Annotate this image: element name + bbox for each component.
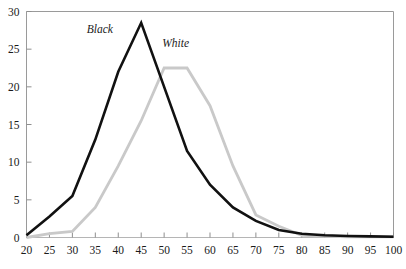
x-tick-label: 70 xyxy=(250,244,262,256)
series-line-white xyxy=(27,68,394,238)
x-tick-label: 50 xyxy=(158,244,170,256)
x-tick-label: 45 xyxy=(135,244,147,256)
chart-container: 051015202530 202530354045505560657075808… xyxy=(0,0,406,269)
x-axis-tick-labels: 20253035404550556065707580859095100 xyxy=(21,244,403,256)
x-tick-label: 55 xyxy=(181,244,193,256)
y-tick-label: 10 xyxy=(8,156,20,168)
y-axis-ticks xyxy=(27,12,32,238)
x-tick-label: 25 xyxy=(44,244,56,256)
y-tick-label: 5 xyxy=(14,194,20,206)
x-tick-label: 60 xyxy=(204,244,216,256)
x-tick-label: 80 xyxy=(296,244,308,256)
x-tick-label: 40 xyxy=(113,244,125,256)
x-tick-label: 85 xyxy=(319,244,331,256)
y-tick-label: 0 xyxy=(14,232,20,244)
distribution-line-chart: 051015202530 202530354045505560657075808… xyxy=(0,0,406,269)
x-tick-label: 20 xyxy=(21,244,33,256)
x-tick-label: 90 xyxy=(342,244,354,256)
x-tick-label: 75 xyxy=(273,244,285,256)
x-tick-label: 35 xyxy=(90,244,102,256)
series-label-white: White xyxy=(162,37,189,49)
plot-frame xyxy=(27,12,394,238)
plot-border xyxy=(27,12,394,238)
series-line-black xyxy=(27,23,394,237)
x-tick-label: 100 xyxy=(385,244,403,256)
x-tick-label: 30 xyxy=(67,244,79,256)
series-group xyxy=(27,23,394,238)
y-tick-label: 25 xyxy=(8,43,20,55)
y-tick-label: 15 xyxy=(8,119,20,131)
series-annotations: BlackWhite xyxy=(87,23,189,49)
x-tick-label: 65 xyxy=(227,244,239,256)
x-tick-label: 95 xyxy=(365,244,377,256)
y-tick-label: 30 xyxy=(8,6,20,18)
series-label-black: Black xyxy=(87,23,114,35)
y-axis-tick-labels: 051015202530 xyxy=(8,6,20,244)
y-tick-label: 20 xyxy=(8,81,20,93)
